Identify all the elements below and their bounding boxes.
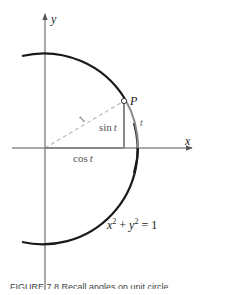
cos-label: cost (73, 152, 94, 164)
arc-t-lower (134, 148, 138, 173)
radius-dashed (45, 101, 124, 148)
unit-circle-diagram: y x P 1 sint cost t x2 + y2 = 1 (0, 0, 230, 295)
hypotenuse-label: 1 (76, 113, 87, 125)
point-p (121, 98, 126, 103)
y-axis-label: y (50, 12, 57, 26)
arc-label: t (140, 117, 143, 128)
circle-equation: x2 + y2 = 1 (106, 217, 157, 232)
x-axis-label: x (184, 134, 191, 148)
point-label: P (129, 94, 138, 108)
sin-label: sint (99, 121, 118, 133)
unit-circle (22, 53, 125, 99)
